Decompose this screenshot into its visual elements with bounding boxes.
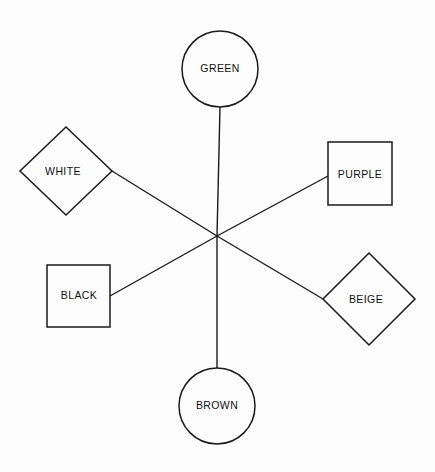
- edge-hub-green: [217, 107, 220, 236]
- node-brown-label: BROWN: [196, 399, 238, 411]
- node-white-label: WHITE: [45, 165, 81, 177]
- edge-hub-white: [112, 171, 217, 236]
- node-beige-label: BEIGE: [349, 293, 383, 305]
- node-white[interactable]: WHITE: [20, 127, 112, 215]
- node-black-label: BLACK: [61, 289, 97, 301]
- diagram-canvas: GREENWHITEPURPLEBLACKBEIGEBROWN: [0, 0, 435, 472]
- node-green[interactable]: GREEN: [182, 31, 258, 107]
- radial-color-diagram: GREENWHITEPURPLEBLACKBEIGEBROWN: [0, 0, 435, 472]
- node-purple-label: PURPLE: [338, 168, 382, 180]
- node-black[interactable]: BLACK: [47, 265, 110, 327]
- node-brown[interactable]: BROWN: [179, 368, 255, 444]
- edges-layer: [110, 107, 328, 368]
- edge-hub-black: [110, 236, 217, 296]
- node-green-label: GREEN: [200, 62, 239, 74]
- edge-hub-beige: [217, 236, 323, 299]
- edge-hub-purple: [217, 176, 328, 236]
- node-purple[interactable]: PURPLE: [328, 142, 392, 205]
- node-beige[interactable]: BEIGE: [323, 253, 415, 345]
